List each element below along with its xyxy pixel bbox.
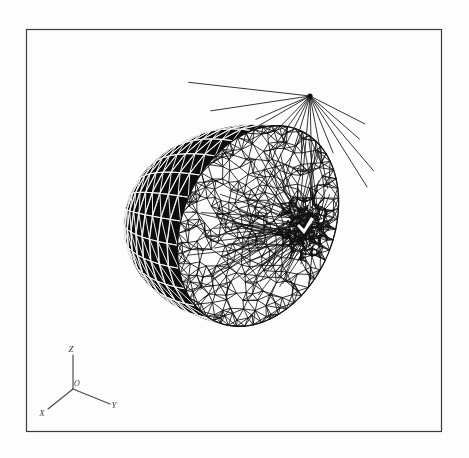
figure-container: Z Y X O [0, 0, 469, 458]
mesh-figure-canvas [0, 0, 469, 458]
